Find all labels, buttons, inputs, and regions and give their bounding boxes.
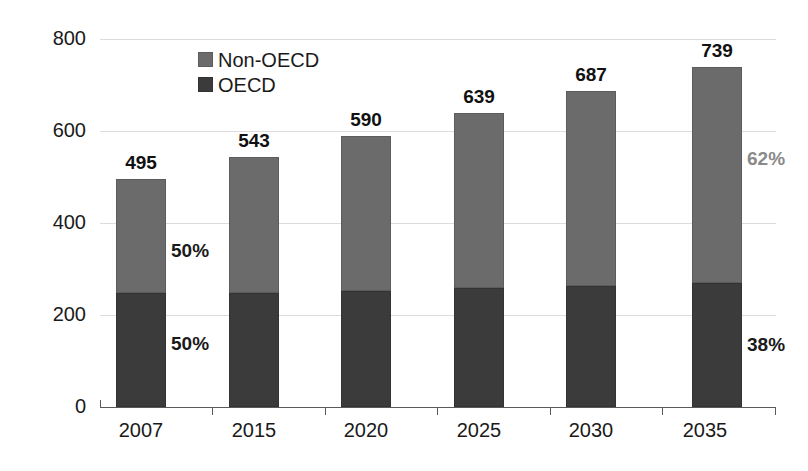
x-axis-label-2020: 2020 — [326, 419, 406, 442]
stacked-bar-chart: 800 600 400 200 0 495 543 590 639 687 73… — [0, 0, 808, 471]
pct-annotation-oecd-2035: 38% — [747, 334, 785, 356]
legend-label: OECD — [218, 75, 276, 95]
x-axis-end-tick — [775, 407, 776, 415]
bar-segment-non-oecd-2007[interactable] — [116, 179, 166, 293]
y-axis-tick-label: 200 — [22, 303, 86, 326]
pct-annotation-oecd-2007: 50% — [171, 333, 209, 355]
gridline-800 — [100, 39, 776, 40]
x-axis-tick-2 — [437, 407, 438, 415]
bar-segment-non-oecd-2020[interactable] — [341, 136, 391, 291]
x-axis-label-2025: 2025 — [439, 419, 519, 442]
bar-segment-oecd-2020[interactable] — [341, 291, 391, 407]
bar-segment-oecd-2030[interactable] — [566, 286, 616, 407]
x-axis-tick-4 — [662, 407, 663, 415]
bar-segment-non-oecd-2015[interactable] — [229, 157, 279, 293]
bar-segment-non-oecd-2035[interactable] — [692, 67, 742, 283]
bar-segment-oecd-2025[interactable] — [454, 288, 504, 407]
bar-segment-oecd-2007[interactable] — [116, 293, 166, 407]
bar-total-label-2030: 687 — [556, 64, 626, 86]
x-axis-line — [100, 407, 776, 408]
bar-segment-non-oecd-2030[interactable] — [566, 91, 616, 286]
bar-segment-oecd-2035[interactable] — [692, 283, 742, 407]
x-axis-label-2030: 2030 — [551, 419, 631, 442]
bar-total-label-2025: 639 — [444, 86, 514, 108]
x-axis-tick-1 — [325, 407, 326, 415]
x-axis-label-2035: 2035 — [665, 419, 745, 442]
x-axis-tick-3 — [550, 407, 551, 415]
gridline-200 — [100, 315, 776, 316]
bar-total-label-2020: 590 — [331, 109, 401, 131]
gridline-400 — [100, 223, 776, 224]
bar-total-label-2007: 495 — [106, 152, 176, 174]
bar-segment-oecd-2015[interactable] — [229, 293, 279, 407]
legend-swatch-icon — [198, 52, 213, 67]
bar-total-label-2035: 739 — [682, 40, 752, 62]
x-axis-label-2015: 2015 — [214, 419, 294, 442]
legend-item-non-oecd[interactable]: Non-OECD — [198, 47, 319, 72]
pct-annotation-non-oecd-2035: 62% — [747, 148, 785, 170]
bar-segment-non-oecd-2025[interactable] — [454, 113, 504, 288]
legend-label: Non-OECD — [218, 50, 319, 70]
y-axis-tick-label: 0 — [22, 395, 86, 418]
bar-total-label-2015: 543 — [219, 130, 289, 152]
y-axis-tick-label: 800 — [22, 27, 86, 50]
y-axis-tick-label: 400 — [22, 211, 86, 234]
x-axis-tick-0 — [212, 407, 213, 415]
legend-swatch-icon — [198, 77, 213, 92]
legend-item-oecd[interactable]: OECD — [198, 72, 319, 97]
gridline-600 — [100, 131, 776, 132]
chart-legend: Non-OECD OECD — [198, 47, 319, 97]
y-axis-tick-label: 600 — [22, 119, 86, 142]
pct-annotation-non-oecd-2007: 50% — [171, 240, 209, 262]
y-axis-start-tick — [100, 400, 101, 408]
x-axis-label-2007: 2007 — [101, 419, 181, 442]
